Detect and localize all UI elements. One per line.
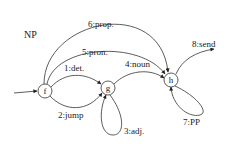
node-g-label: g <box>106 83 111 93</box>
fsa-diagram: NP 6:prop. 5:pron. 1:det. 2:jump 3:adj. … <box>0 0 235 148</box>
edge-4-noun <box>114 72 164 84</box>
node-f: f <box>38 84 52 98</box>
edge-label-7: 7:PP <box>183 117 200 127</box>
edge-label-5: 5:pron. <box>82 47 108 57</box>
edge-label-3: 3:adj. <box>124 126 144 136</box>
edge-label-6: 6:prop. <box>88 19 114 29</box>
edge-8-send <box>176 49 214 74</box>
edge-label-2: 2:jump <box>58 110 84 120</box>
edge-label-4: 4:noun <box>125 59 151 69</box>
edge-1-det <box>51 75 101 87</box>
node-f-label: f <box>44 86 47 96</box>
start-arrow <box>14 91 37 93</box>
node-h: h <box>164 73 178 87</box>
edge-7-pp <box>171 86 203 115</box>
diagram-title: NP <box>24 29 37 40</box>
edge-2-jump <box>50 93 102 108</box>
node-g: g <box>101 81 115 95</box>
edge-3-adj <box>101 95 121 135</box>
edge-label-1: 1:det. <box>64 63 84 73</box>
node-h-label: h <box>169 75 174 85</box>
edge-label-8: 8:send <box>192 39 216 49</box>
